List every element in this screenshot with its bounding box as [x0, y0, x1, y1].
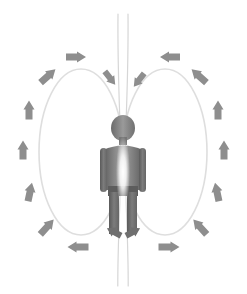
diagram-canvas — [0, 0, 247, 294]
figure-leg-left — [109, 192, 119, 234]
toroidal-field-diagram — [0, 0, 247, 294]
central-body-glow — [116, 136, 130, 208]
figure-arm-left — [100, 148, 107, 192]
figure-arm-right — [139, 148, 146, 192]
